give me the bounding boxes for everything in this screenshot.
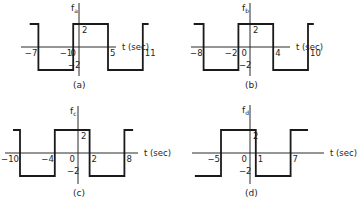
function-label: fb <box>242 3 249 14</box>
subfigure-caption: (d) <box>245 188 258 198</box>
tick-label: 8 <box>126 154 131 164</box>
function-label: fa <box>71 3 78 14</box>
tick-label: −10 <box>1 154 19 164</box>
subfigure-caption: (a) <box>73 80 86 90</box>
high-value-label: 2 <box>82 25 87 35</box>
high-value-label: 2 <box>253 131 258 141</box>
low-value-label: −2 <box>239 60 252 70</box>
tick-label: −5 <box>207 154 220 164</box>
tick-label: −8 <box>190 48 203 58</box>
tick-label: −4 <box>41 154 54 164</box>
function-label: fc <box>70 106 76 117</box>
tick-label: 0 <box>71 48 76 58</box>
tick-label: −2 <box>225 48 238 58</box>
time-axis-label: t (sec) <box>296 42 323 52</box>
tick-label: −7 <box>25 48 38 58</box>
low-value-label: −2 <box>68 60 81 70</box>
time-axis-label: t (sec) <box>122 42 149 52</box>
function-label: fd <box>242 105 249 116</box>
subfigure-caption: (c) <box>73 188 85 198</box>
low-value-label: −2 <box>67 166 80 176</box>
tick-label: 0 <box>242 154 247 164</box>
plot-a: fa2−2−7−10511t (sec)(a) <box>21 3 156 90</box>
tick-label: 5 <box>110 48 115 58</box>
tick-label: 0 <box>70 154 75 164</box>
tick-label: 0 <box>242 48 247 58</box>
high-value-label: 2 <box>81 131 86 141</box>
square-wave-figure: fa2−2−7−10511t (sec)(a)fb2−2−8−20410t (s… <box>0 0 358 202</box>
tick-label: 2 <box>92 154 97 164</box>
plot-c: fc2−2−10−4028t (sec)(c) <box>1 106 171 198</box>
high-value-label: 2 <box>253 25 258 35</box>
time-axis-label: t (sec) <box>330 148 357 158</box>
tick-label: 7 <box>293 154 298 164</box>
low-value-label: −2 <box>239 166 252 176</box>
tick-label: 1 <box>258 154 263 164</box>
tick-label: 4 <box>275 48 280 58</box>
time-axis-label: t (sec) <box>144 148 171 158</box>
plot-b: fb2−2−8−20410t (sec)(b) <box>190 3 323 90</box>
subfigure-caption: (b) <box>245 80 258 90</box>
plot-d: fd2−2−5017t (sec)(d) <box>192 105 357 198</box>
